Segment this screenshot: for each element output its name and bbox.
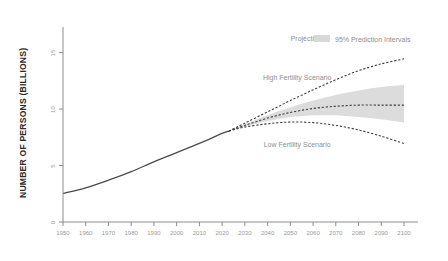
x-tick-label: 2090 [375, 230, 389, 236]
y-axis-ticks: 051015 [50, 49, 63, 224]
x-tick-label: 1970 [102, 230, 116, 236]
y-axis-title: NUMBER OF PERSONS (BILLIONS) [18, 48, 28, 198]
x-tick-label: 2050 [284, 230, 298, 236]
x-tick-label: 2100 [397, 230, 411, 236]
x-tick-label: 1990 [147, 230, 161, 236]
chart-legend: 95% Prediction Intervals [314, 35, 411, 43]
low-fertility-line [229, 122, 404, 144]
x-axis-ticks: 1950196019701980199020002010202020302040… [56, 222, 411, 236]
y-tick-label: 5 [50, 164, 56, 168]
y-tick-label: 10 [50, 106, 56, 113]
y-tick-label: 15 [50, 49, 56, 56]
prediction-interval-legend-label: 95% Prediction Intervals [335, 36, 411, 43]
prediction-interval-band [229, 85, 404, 131]
x-tick-label: 2060 [306, 230, 320, 236]
x-tick-label: 2000 [170, 230, 184, 236]
chart-annotations: ProjectionHigh Fertility ScenarioLow Fer… [263, 35, 332, 149]
x-tick-label: 2070 [329, 230, 343, 236]
x-tick-label: 1950 [56, 230, 70, 236]
x-tick-label: 2010 [193, 230, 207, 236]
y-tick-label: 0 [50, 220, 56, 224]
x-tick-label: 2020 [215, 230, 229, 236]
chart-canvas: 051015 195019601970198019902000201020202… [0, 0, 448, 261]
high-fertility-label: High Fertility Scenario [263, 74, 332, 82]
population-projection-chart: 051015 195019601970198019902000201020202… [0, 0, 448, 261]
low-fertility-label: Low Fertility Scenario [264, 141, 331, 149]
x-tick-label: 1960 [79, 230, 93, 236]
prediction-interval-swatch [314, 35, 330, 42]
historical-line [63, 131, 229, 193]
x-tick-label: 2080 [352, 230, 366, 236]
x-tick-label: 2030 [238, 230, 252, 236]
x-tick-label: 2040 [261, 230, 275, 236]
x-tick-label: 1980 [125, 230, 139, 236]
